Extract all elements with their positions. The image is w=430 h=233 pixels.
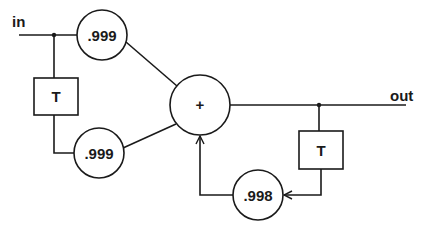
- gain-feedback-label: .998: [243, 187, 272, 204]
- gain-top-label: .999: [87, 27, 116, 44]
- top-gain-to-sum-wire: [126, 42, 177, 86]
- input-label: in: [12, 13, 25, 30]
- feedback-delay-to-gain-wire: [284, 169, 321, 195]
- output-label: out: [390, 87, 413, 104]
- filter-block-diagram: in out .999 T .999 + T .998: [0, 0, 430, 233]
- input-junction-dot: [52, 33, 56, 37]
- output-junction-dot: [317, 103, 321, 107]
- feedback-gain-to-sum-wire: [200, 136, 233, 195]
- sum-label: +: [196, 96, 205, 113]
- delay-feedback-label: T: [316, 142, 325, 159]
- gain-bottom-label: .999: [84, 145, 113, 162]
- delay-to-gain-wire: [54, 115, 74, 153]
- delay-input-label: T: [51, 88, 60, 105]
- bottom-gain-to-sum-wire: [123, 124, 176, 148]
